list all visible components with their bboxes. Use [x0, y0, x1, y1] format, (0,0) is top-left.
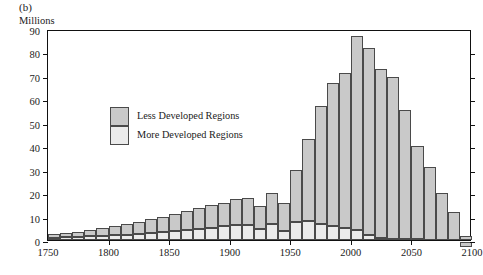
y-axis-tick-right [470, 242, 475, 243]
bar-group [230, 199, 242, 240]
bar-segment-less-developed [205, 205, 217, 227]
y-axis-tick [43, 148, 48, 149]
x-axis-tick [169, 240, 170, 245]
bar-segment-less-developed [351, 36, 363, 230]
bar-segment-less-developed [266, 193, 278, 223]
bar-segment-less-developed [363, 48, 375, 236]
bar-group [278, 203, 290, 241]
bar-segment-less-developed [169, 214, 181, 231]
bar-segment-more-developed [60, 237, 72, 240]
bar-segment-less-developed [145, 219, 157, 233]
bar-segment-more-developed [72, 237, 84, 240]
bar-segment-less-developed [399, 110, 411, 239]
bar-group [48, 234, 60, 240]
legend-swatch-more-developed [110, 126, 129, 145]
y-axis-tick-right [470, 54, 475, 55]
bar-segment-less-developed [411, 146, 423, 240]
bar-group [145, 219, 157, 240]
bar-group [60, 233, 72, 240]
bar-segment-more-developed [315, 224, 327, 240]
y-axis-label: 80 [30, 49, 41, 60]
bar-segment-less-developed [96, 228, 108, 236]
y-axis-tick [43, 219, 48, 220]
x-axis-tick [290, 240, 291, 245]
bar-segment-less-developed [193, 208, 205, 229]
bar-segment-less-developed [375, 69, 387, 238]
bar-segment-more-developed [96, 236, 108, 240]
bar-segment-more-developed [121, 235, 133, 240]
bar-segment-more-developed [193, 229, 205, 240]
bar-group [302, 139, 314, 240]
bar-segment-more-developed [290, 222, 302, 240]
y-axis-tick [43, 78, 48, 79]
bar-segment-more-developed [169, 231, 181, 240]
bar-segment-more-developed [181, 230, 193, 240]
bar-segment-less-developed [84, 230, 96, 237]
bar-group [351, 36, 363, 240]
bar-group [72, 232, 84, 240]
bar-group [436, 193, 448, 240]
y-axis-tick-right [470, 148, 475, 149]
bar-segment-more-developed [84, 236, 96, 240]
bar-segment-more-developed [157, 232, 169, 240]
panel-letter: (b) [19, 1, 32, 13]
bar-segment-less-developed [315, 106, 327, 223]
bar-group [254, 206, 266, 240]
bar-segment-less-developed [109, 226, 121, 235]
y-axis-label: 10 [30, 213, 41, 224]
bar-group [84, 230, 96, 240]
legend-label-less-developed: Less Developed Regions [137, 110, 239, 121]
x-axis-label: 1800 [98, 247, 119, 258]
bar-segment-more-developed [327, 226, 339, 240]
bar-segment-more-developed [145, 233, 157, 240]
bar-segment-more-developed [351, 230, 363, 240]
bar-segment-more-developed [254, 229, 266, 240]
y-axis-tick [43, 242, 48, 243]
bar-segment-less-developed [60, 233, 72, 237]
bar-group [424, 167, 436, 240]
bar-group [327, 83, 339, 240]
bar-segment-more-developed [218, 226, 230, 240]
legend-label-more-developed: More Developed Regions [137, 129, 243, 140]
y-axis-label: 0 [35, 237, 40, 248]
y-axis-label: 20 [30, 190, 41, 201]
x-axis-tick [230, 240, 231, 245]
bar-group [411, 146, 423, 240]
bar-segment-more-developed [339, 228, 351, 240]
bar-group [315, 106, 327, 240]
bar-group [96, 228, 108, 240]
x-axis-label: 2000 [340, 247, 361, 258]
bar-segment-more-developed [278, 231, 290, 240]
bar-segment-more-developed [302, 221, 314, 240]
x-axis-label: 1900 [219, 247, 240, 258]
y-axis-tick-right [470, 219, 475, 220]
bar-group [205, 205, 217, 240]
bar-segment-less-developed [436, 193, 448, 240]
x-axis-tick [411, 240, 412, 245]
x-axis-label: 1750 [38, 247, 59, 258]
bar-group [109, 226, 121, 240]
bar-segment-less-developed [424, 167, 436, 240]
bar-group [448, 212, 460, 240]
bar-group [266, 193, 278, 240]
bar-segment-less-developed [230, 199, 242, 225]
bar-segment-more-developed [266, 224, 278, 240]
bar-segment-less-developed [339, 73, 351, 228]
bar-segment-less-developed [48, 234, 60, 238]
y-axis-tick-right [470, 78, 475, 79]
bar-segment-less-developed [254, 206, 266, 229]
y-axis-tick [43, 101, 48, 102]
bar-group [242, 198, 254, 240]
bar-group [218, 203, 230, 241]
x-axis-label: 2100 [462, 247, 483, 258]
bar-segment-less-developed [121, 224, 133, 234]
y-axis-label: 70 [30, 72, 41, 83]
y-axis-tick [43, 195, 48, 196]
bar-group [387, 77, 399, 240]
bar-segment-more-developed [230, 225, 242, 240]
bar-segment-more-developed [363, 235, 375, 240]
bar-segment-more-developed [242, 225, 254, 240]
y-axis-tick [43, 125, 48, 126]
bar-segment-less-developed [72, 232, 84, 237]
